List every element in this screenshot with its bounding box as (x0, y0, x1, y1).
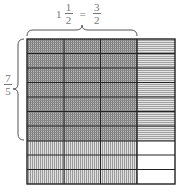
empty-region (137, 141, 175, 184)
width-brace (27, 25, 137, 36)
height-brace (13, 39, 24, 140)
area-model-grid (0, 0, 187, 193)
vertical-hatch-region (27, 141, 137, 184)
